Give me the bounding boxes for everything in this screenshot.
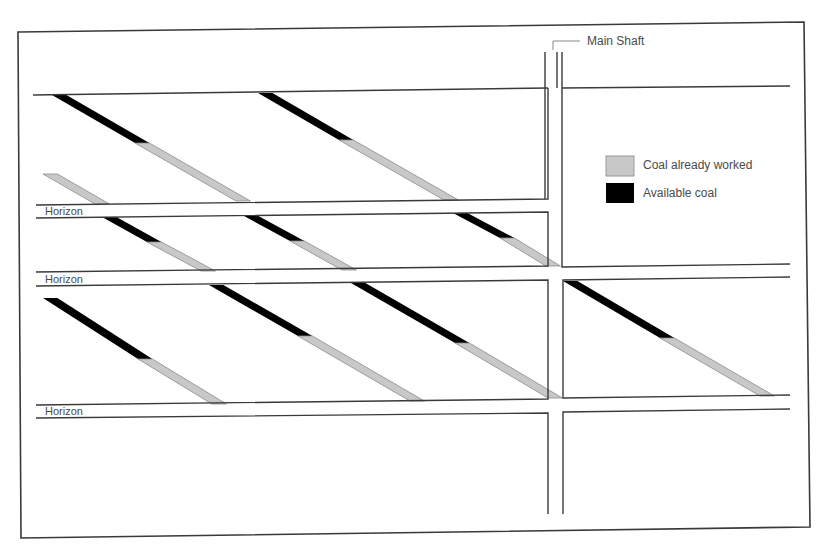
horizon-label-2: Horizon xyxy=(45,273,83,285)
legend-swatch-available xyxy=(606,183,634,203)
legend-swatch-worked xyxy=(606,156,634,176)
main-shaft-label: Main Shaft xyxy=(587,34,645,48)
horizon-label-1: Horizon xyxy=(45,205,83,217)
horizon-label-3: Horizon xyxy=(45,405,83,417)
outer-frame xyxy=(18,22,810,538)
legend-label-available: Available coal xyxy=(643,186,717,200)
legend-label-worked: Coal already worked xyxy=(643,158,752,172)
mine-cross-section-diagram: Main Shaft Horizon Horizon Horizon Coal … xyxy=(0,0,826,556)
